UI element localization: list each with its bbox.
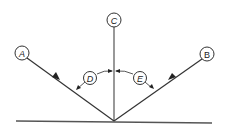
label-a-badge: A — [15, 46, 29, 60]
label-e: E — [137, 74, 144, 84]
reflection-diagram: C A B D E — [0, 0, 231, 129]
label-c: C — [111, 16, 118, 26]
reflected-ray — [114, 59, 202, 121]
label-b-badge: B — [200, 47, 214, 61]
incident-ray — [27, 58, 114, 121]
label-d: D — [87, 74, 94, 84]
label-c-badge: C — [107, 13, 121, 27]
reflecting-surface — [16, 121, 212, 123]
label-a: A — [18, 49, 25, 59]
angle-d-arrow-top-icon — [108, 69, 113, 73]
reflected-ray-arrow-icon — [168, 73, 176, 80]
label-e-badge: E — [134, 72, 147, 85]
label-b: B — [204, 50, 210, 60]
label-d-badge: D — [84, 72, 97, 85]
angle-e-arrow-bottom-icon — [149, 84, 154, 89]
angle-e-arrow-top-icon — [115, 69, 120, 73]
